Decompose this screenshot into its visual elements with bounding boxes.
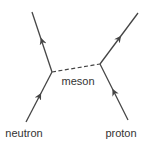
- proton-label: proton: [105, 127, 136, 139]
- proton-outgoing-line: [100, 13, 138, 64]
- feynman-diagram: meson neutron proton: [0, 0, 150, 145]
- neutron-incoming-line: [26, 72, 52, 122]
- meson-label: meson: [61, 75, 94, 87]
- meson-exchange-line: [52, 64, 100, 72]
- neutron-outgoing-line: [32, 12, 52, 72]
- proton-incoming-line: [100, 64, 128, 120]
- neutron-label: neutron: [5, 127, 42, 139]
